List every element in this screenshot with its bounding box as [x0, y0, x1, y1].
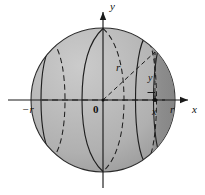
- axis-tick-label-r: r: [170, 104, 174, 115]
- point-marker-x: [153, 98, 157, 102]
- point-marker-origin: [102, 99, 105, 102]
- origin-label: 0: [93, 104, 99, 115]
- figure-canvas: y x −r r 0 r y x: [0, 0, 205, 195]
- axis-label-y: y: [110, 1, 115, 12]
- axis-label-x: x: [192, 104, 197, 115]
- axis-tick-label-neg-r: −r: [22, 104, 34, 115]
- radius-label: r: [116, 62, 120, 73]
- disk-radius-label: y: [148, 73, 152, 83]
- sphere-diagram-svg: [0, 0, 205, 195]
- slab-position-label: x: [152, 107, 156, 117]
